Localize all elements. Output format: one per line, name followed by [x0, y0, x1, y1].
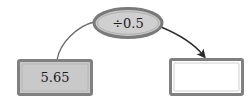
connector-input-to-operation — [57, 22, 94, 60]
operation-label: ÷0.5 — [112, 16, 144, 31]
function-machine-diagram: 5.65 ÷0.5 — [0, 0, 251, 104]
connector-operation-to-output — [161, 27, 203, 55]
output-answer-box-inner — [174, 63, 239, 91]
input-value-label: 5.65 — [41, 70, 70, 85]
diagram-canvas: 5.65 ÷0.5 — [0, 0, 251, 104]
